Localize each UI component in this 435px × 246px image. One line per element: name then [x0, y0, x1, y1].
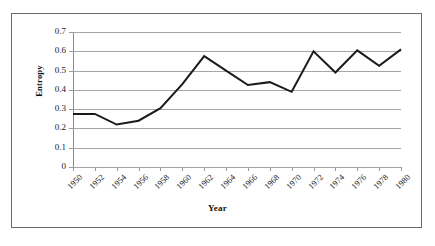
chart-figure: 00.10.20.30.40.50.60.7 Entropy 195019521…: [0, 0, 435, 246]
y-axis-tick-label: 0: [62, 162, 67, 171]
entropy-polyline: [73, 49, 401, 124]
x-axis-tick: [226, 167, 227, 171]
x-axis-tick: [95, 167, 96, 171]
y-axis-tick-labels: 00.10.20.30.40.50.60.7: [26, 14, 66, 214]
x-axis-tick: [270, 167, 271, 171]
x-axis-tick: [292, 167, 293, 171]
plot-area: [73, 32, 401, 167]
x-axis-tick: [182, 167, 183, 171]
y-axis-tick-label: 0.1: [55, 143, 66, 152]
x-axis-tick: [379, 167, 380, 171]
x-axis-tick: [73, 167, 74, 171]
x-axis-title: Year: [12, 203, 423, 213]
x-axis-tick: [204, 167, 205, 171]
y-axis-title: Entropy: [34, 46, 44, 116]
x-axis-tick: [401, 167, 402, 171]
y-axis-tick-label: 0.3: [55, 104, 66, 113]
x-axis-tick: [335, 167, 336, 171]
y-axis-tick-label: 0.6: [55, 46, 66, 55]
entropy-line-series: [73, 32, 401, 167]
x-axis-tick: [248, 167, 249, 171]
y-axis-tick-label: 0.5: [55, 66, 66, 75]
x-axis-tick: [160, 167, 161, 171]
x-axis-tick: [139, 167, 140, 171]
x-axis-tick: [117, 167, 118, 171]
x-axis-tick: [314, 167, 315, 171]
y-axis-tick-label: 0.7: [55, 27, 66, 36]
y-axis-tick-label: 0.2: [55, 123, 66, 132]
x-axis-tick: [357, 167, 358, 171]
y-axis-tick-label: 0.4: [55, 85, 66, 94]
gridline: [73, 167, 401, 168]
chart-border: 00.10.20.30.40.50.60.7 Entropy 195019521…: [11, 13, 422, 228]
